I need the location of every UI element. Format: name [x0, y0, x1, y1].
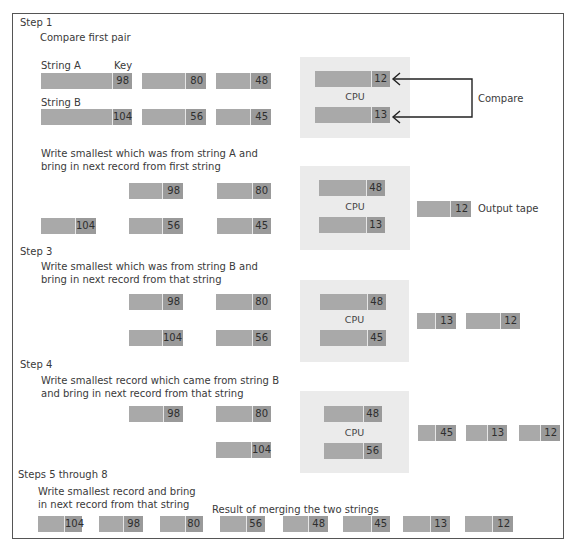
- record-key: 98: [162, 183, 183, 199]
- record-string-b-3: 45: [216, 109, 271, 125]
- record-string-a-1: 98: [129, 406, 183, 422]
- output-tape-record: 13: [466, 425, 507, 441]
- record-key: 48: [367, 294, 386, 310]
- record-string-b-1: 104: [41, 109, 132, 125]
- record-key: 12: [371, 71, 390, 87]
- record-string-b-3: 45: [217, 218, 271, 234]
- record-key: 12: [500, 313, 520, 329]
- record-key: 56: [185, 109, 206, 125]
- record-string-a-2: 80: [217, 183, 271, 199]
- output-tape-record: 12: [466, 313, 520, 329]
- cpu-record-1: 48: [320, 294, 386, 310]
- record-key: 45: [371, 516, 390, 532]
- result-record-2: 98: [99, 516, 143, 532]
- record-string-b-1: 104: [216, 442, 271, 458]
- record-key: 104: [162, 330, 183, 346]
- record-key: 104: [112, 109, 132, 125]
- compare-label: Compare: [478, 93, 523, 105]
- result-record-1: 104: [38, 516, 82, 532]
- step1-title: Step 1: [20, 17, 52, 29]
- record-string-a-2: 80: [142, 73, 206, 89]
- record-key: 12: [540, 425, 560, 441]
- string-b-label: String B: [41, 97, 81, 109]
- step5-description-line2: in next record from that string: [38, 499, 189, 511]
- cpu-label: CPU: [300, 314, 409, 325]
- record-string-a-2: 80: [216, 406, 271, 422]
- record-key: 48: [366, 180, 385, 196]
- record-key: 80: [185, 73, 206, 89]
- record-key: 56: [363, 443, 382, 459]
- record-key: 13: [435, 313, 456, 329]
- record-string-a-1: 98: [41, 73, 132, 89]
- result-record-5: 48: [283, 516, 328, 532]
- record-string-b-2: 56: [142, 109, 206, 125]
- record-string-b-2: 56: [216, 330, 271, 346]
- record-key: 13: [371, 107, 390, 123]
- step4-description-line1: Write smallest record which came from st…: [41, 375, 279, 387]
- string-a-label: String A: [41, 60, 81, 72]
- cpu-record-1: 48: [319, 180, 385, 196]
- record-key: 12: [450, 201, 471, 217]
- cpu-box-step2: 48 CPU 13: [300, 166, 410, 250]
- record-key: 104: [64, 516, 82, 532]
- record-string-b-1: 104: [41, 218, 96, 234]
- output-tape-label: Output tape: [478, 203, 538, 215]
- record-key: 104: [75, 218, 96, 234]
- result-record-4: 56: [220, 516, 265, 532]
- record-key: 56: [246, 516, 265, 532]
- record-key: 80: [185, 516, 203, 532]
- cpu-record-2: 56: [324, 443, 382, 459]
- record-key: 48: [250, 73, 271, 89]
- cpu-box-step3: 48 CPU 45: [300, 280, 409, 362]
- record-key: 80: [252, 294, 271, 310]
- record-string-a-2: 80: [216, 294, 271, 310]
- cpu-label: CPU: [300, 427, 409, 438]
- record-key: 13: [487, 425, 507, 441]
- output-tape-record: 45: [418, 425, 456, 441]
- step2-description-line2: bring in next record from first string: [41, 161, 221, 173]
- cpu-record-2: 13: [315, 107, 390, 123]
- output-tape-record: 12: [417, 201, 471, 217]
- step5-title: Steps 5 through 8: [18, 469, 108, 481]
- result-label: Result of merging the two strings: [212, 504, 379, 516]
- record-key: 48: [363, 406, 382, 422]
- record-key: 80: [252, 183, 271, 199]
- result-record-6: 45: [343, 516, 390, 532]
- record-key: 98: [163, 406, 183, 422]
- record-key: 98: [162, 294, 183, 310]
- record-string-a-1: 98: [129, 183, 183, 199]
- result-record-3: 80: [160, 516, 203, 532]
- step3-title: Step 3: [20, 246, 52, 258]
- cpu-record-1: 48: [324, 406, 382, 422]
- cpu-record-2: 45: [320, 330, 386, 346]
- cpu-box-step4: 48 CPU 56: [300, 391, 409, 473]
- cpu-record-1: 12: [315, 71, 390, 87]
- record-string-a-1: 98: [129, 294, 183, 310]
- record-key: 45: [250, 109, 271, 125]
- record-key: 104: [251, 442, 271, 458]
- step3-description-line2: bring in next record from that string: [41, 274, 222, 286]
- record-key: 13: [366, 217, 385, 233]
- record-key: 45: [435, 425, 456, 441]
- record-key: 80: [252, 406, 271, 422]
- record-key: 13: [430, 516, 450, 532]
- record-string-a-3: 48: [216, 73, 271, 89]
- record-key: 45: [252, 218, 271, 234]
- step2-description-line1: Write smallest which was from string A a…: [41, 148, 258, 160]
- record-key: 56: [162, 218, 183, 234]
- record-key: 45: [367, 330, 386, 346]
- step4-title: Step 4: [20, 359, 52, 371]
- step1-description: Compare first pair: [40, 32, 131, 44]
- record-key: 12: [492, 516, 513, 532]
- record-string-b-1: 104: [129, 330, 183, 346]
- output-tape-record: 13: [417, 313, 456, 329]
- step5-description-line1: Write smallest record and bring: [38, 486, 196, 498]
- record-key: 98: [112, 73, 132, 89]
- cpu-record-2: 13: [319, 217, 385, 233]
- step3-description-line1: Write smallest which was from string B a…: [41, 261, 258, 273]
- compare-arrow-icon: [390, 72, 480, 124]
- key-label: Key: [114, 60, 132, 72]
- output-tape-record: 12: [519, 425, 560, 441]
- step4-description-line2: and bring in next record from that strin…: [41, 388, 244, 400]
- record-string-b-2: 56: [129, 218, 183, 234]
